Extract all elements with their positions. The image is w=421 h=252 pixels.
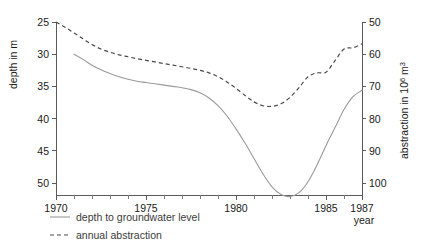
left-axis-tick-label: 35 xyxy=(37,80,49,92)
right-axis-tick-label: 50 xyxy=(369,16,381,28)
series-line-depth-to-groundwater-level xyxy=(74,54,362,196)
right-axis-title: abstraction in 106 m3 xyxy=(398,62,410,159)
x-axis-tick-label: 1970 xyxy=(44,202,68,214)
left-axis-tick-label: 40 xyxy=(37,113,49,125)
legend-item-label: annual abstraction xyxy=(76,229,162,241)
chart-figure: 2530354045505060708090100197019751980198… xyxy=(0,0,421,252)
left-axis-tick-label: 30 xyxy=(37,48,49,60)
right-axis-tick-label: 70 xyxy=(369,80,381,92)
chart-canvas: 2530354045505060708090100197019751980198… xyxy=(0,0,421,252)
left-axis-tick-label: 50 xyxy=(37,177,49,189)
x-axis-title: year xyxy=(354,214,375,226)
chart-legend: depth to groundwater levelannual abstrac… xyxy=(50,211,200,241)
series-layer xyxy=(56,22,362,197)
legend-item-label: depth to groundwater level xyxy=(76,211,200,223)
right-axis-tick-label: 80 xyxy=(369,113,381,125)
x-axis-tick-label: 1980 xyxy=(224,202,248,214)
right-axis-tick-label: 90 xyxy=(369,145,381,157)
x-axis-tick-label: 1985 xyxy=(314,202,338,214)
right-axis-tick-label: 100 xyxy=(369,177,387,189)
x-axis-tick-label: 1987 xyxy=(350,202,374,214)
left-axis-title: depth in m xyxy=(7,40,19,89)
series-line-annual-abstraction xyxy=(56,22,362,107)
left-axis-tick-label: 25 xyxy=(37,16,49,28)
right-axis-tick-label: 60 xyxy=(369,48,381,60)
left-axis-tick-label: 45 xyxy=(37,145,49,157)
